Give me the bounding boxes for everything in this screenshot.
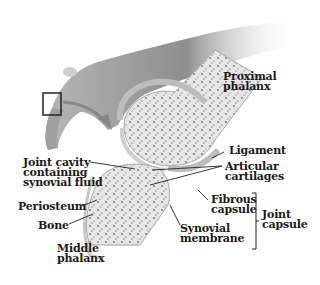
label-ligament: Ligament (229, 146, 286, 156)
label-joint-capsule: Joint capsule (262, 210, 307, 230)
finger-joint-diagram: Proximal phalanx Ligament Articular cart… (0, 0, 320, 285)
label-fibrous-capsule: Fibrous capsule (211, 195, 257, 215)
joint-illustration (0, 0, 320, 285)
label-synovial-membrane: Synovial membrane (180, 224, 244, 244)
label-articular-cartilages: Articular cartilages (225, 162, 284, 182)
label-middle-phalanx: Middle phalanx (57, 244, 104, 264)
label-joint-cavity: Joint cavity containing synovial fluid (23, 158, 103, 188)
label-proximal-phalanx: Proximal phalanx (223, 72, 277, 92)
label-periosteum: Periosteum (18, 202, 86, 212)
label-bone: Bone (38, 221, 69, 231)
